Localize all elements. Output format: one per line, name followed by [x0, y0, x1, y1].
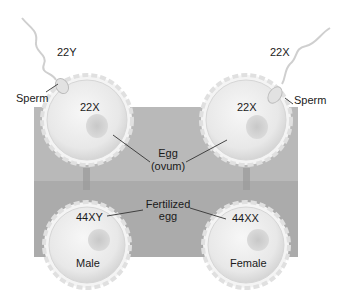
left-egg-chromosomes: 22X: [80, 101, 100, 113]
egg-label-line1: Egg: [148, 147, 188, 159]
left-arrow-connector: [83, 168, 90, 190]
egg-label-line2: (ovum): [143, 160, 193, 172]
right-zygote-sex: Female: [230, 257, 267, 269]
left-zygote-nucleus: [88, 229, 110, 251]
right-sperm-chromosomes: 22X: [270, 46, 290, 58]
left-zygote-chromosomes: 44XY: [76, 211, 103, 223]
right-egg-chromosomes: 22X: [237, 101, 257, 113]
left-zygote-sex: Male: [76, 257, 100, 269]
right-arrow-connector: [243, 168, 250, 190]
fertilized-label-line2: egg: [148, 210, 188, 222]
right-sperm-label: Sperm: [294, 94, 326, 106]
left-egg-nucleus: [86, 114, 108, 138]
fertilized-label-line1: Fertilized: [140, 198, 196, 210]
left-sperm-label: Sperm: [16, 92, 48, 104]
left-egg-cell: [42, 75, 132, 165]
right-zygote-chromosomes: 44XX: [232, 212, 259, 224]
right-egg-nucleus: [246, 115, 268, 139]
right-zygote-nucleus: [247, 229, 269, 251]
left-sperm-chromosomes: 22Y: [57, 46, 77, 58]
